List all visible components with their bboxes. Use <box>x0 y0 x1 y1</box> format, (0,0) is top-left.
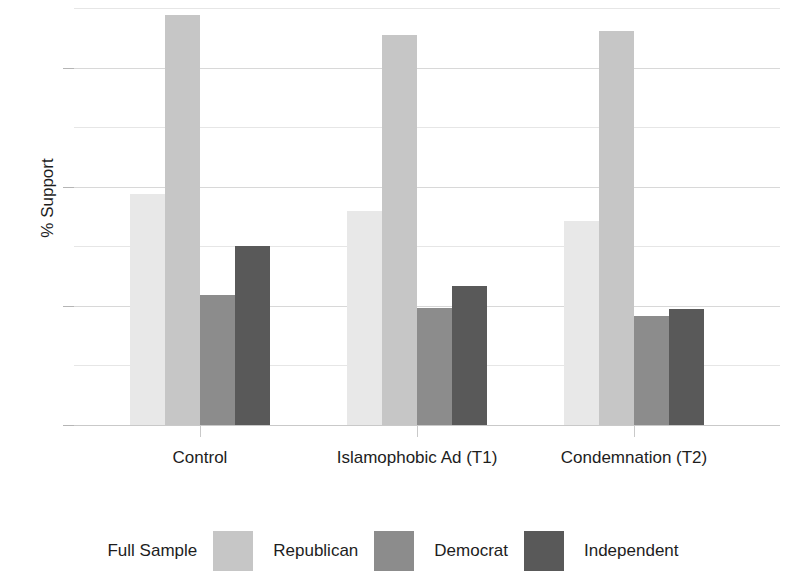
x-tick-label: Control <box>173 448 228 468</box>
x-tick-mark <box>634 425 635 437</box>
bar <box>200 295 235 425</box>
x-tick-mark <box>417 425 418 437</box>
legend-label: Democrat <box>434 541 524 561</box>
legend-swatch <box>374 531 414 571</box>
bar <box>599 31 634 425</box>
y-tick-mark <box>63 306 74 307</box>
chart-legend: Full SampleRepublicanDemocratIndependent <box>0 531 786 571</box>
bar-chart-figure: % Support 0204060 Full SampleRepublicanD… <box>0 0 786 582</box>
legend-swatch <box>213 531 253 571</box>
legend-label: Full Sample <box>107 541 213 561</box>
x-tick-label: Islamophobic Ad (T1) <box>337 448 498 468</box>
y-tick-mark <box>63 425 74 426</box>
bar <box>130 194 165 425</box>
bar <box>382 35 417 425</box>
legend-entry: Democrat <box>434 531 584 571</box>
legend-label: Republican <box>273 541 374 561</box>
legend-entry: Republican <box>273 531 434 571</box>
x-tick-mark <box>200 425 201 437</box>
bar <box>165 15 200 425</box>
bar <box>235 246 270 425</box>
bar <box>417 308 452 425</box>
legend-entry: Full Sample <box>107 531 273 571</box>
bar <box>669 309 704 425</box>
bar <box>347 211 382 425</box>
bar <box>634 316 669 425</box>
x-axis-line <box>74 425 780 426</box>
y-tick-mark <box>63 187 74 188</box>
legend-label: Independent <box>584 541 679 561</box>
bar <box>452 286 487 425</box>
bar <box>564 221 599 425</box>
y-tick-mark <box>63 68 74 69</box>
y-axis-title: % Support <box>38 108 58 288</box>
plot-area: 0204060 <box>74 8 780 425</box>
legend-entry: Independent <box>584 541 679 561</box>
x-tick-label: Condemnation (T2) <box>561 448 707 468</box>
legend-swatch <box>524 531 564 571</box>
gridline-minor <box>74 8 780 9</box>
